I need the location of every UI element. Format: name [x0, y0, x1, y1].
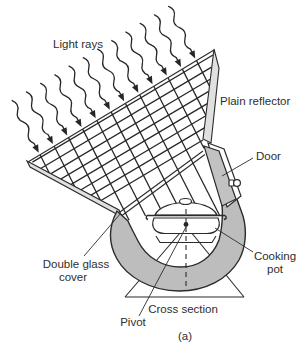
figure-caption: (a) — [178, 330, 192, 342]
door-panel — [204, 143, 241, 207]
diagram-canvas: Light rays Plain reflector Door Double g… — [0, 0, 307, 363]
label-plain-reflector: Plain reflector — [220, 95, 290, 107]
plain-reflector-panel — [203, 49, 219, 143]
left-aperture-panel — [27, 161, 122, 217]
label-double-glass-2: cover — [59, 271, 87, 283]
label-pivot: Pivot — [120, 316, 146, 328]
door-knob — [229, 180, 240, 187]
pivot-dot — [184, 222, 189, 227]
solar-cooker-diagram: Light rays Plain reflector Door Double g… — [0, 0, 307, 363]
aperture-edge-line — [28, 50, 214, 162]
pot-lid-knob — [180, 199, 192, 205]
label-double-glass-1: Double glass — [43, 258, 110, 270]
label-light-rays: Light rays — [53, 38, 103, 50]
label-cooking-pot-1: Cooking — [254, 250, 296, 262]
label-cooking-pot-2: pot — [267, 263, 284, 275]
label-door: Door — [256, 150, 281, 162]
label-cross-section: Cross section — [148, 303, 218, 315]
